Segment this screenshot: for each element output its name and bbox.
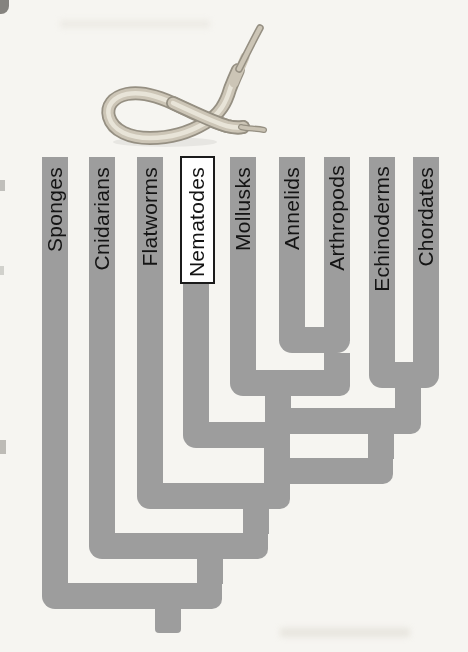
taxon-label-echinoderms: Echinoderms <box>369 166 395 292</box>
taxon-label-sponges: Sponges <box>42 167 68 252</box>
taxon-label-arthropods: Arthropods <box>324 165 350 271</box>
scan-edge-mark <box>0 180 5 191</box>
taxon-label-nematodes: Nematodes <box>184 167 210 277</box>
page-bleedthrough-smudge <box>280 628 410 637</box>
cladogram-figure: Sponges Cnidarians Flatworms Nematodes M… <box>0 0 468 652</box>
taxon-label-annelids: Annelids <box>279 167 305 250</box>
taxon-label-flatworms: Flatworms <box>137 167 163 267</box>
nematode-worm-illustration <box>95 15 273 150</box>
scan-corner-mark <box>0 0 9 14</box>
root-stub <box>155 609 181 633</box>
scan-edge-mark <box>0 266 4 275</box>
branch-join-annelids-arthropods <box>279 327 350 353</box>
stem-protostome-clade <box>265 396 291 409</box>
branch-join-mollusks-clade <box>230 370 350 396</box>
scan-edge-mark <box>0 440 6 454</box>
branch-join-echinoderms-chordates <box>369 362 439 388</box>
branch-join-cnidarians-clade <box>89 533 268 559</box>
stem-nematode-node <box>264 448 290 484</box>
stem-cnidarian-node <box>197 559 223 584</box>
branch-join-flatworms-clade <box>137 483 290 509</box>
stem-coelomate-clade <box>368 434 394 459</box>
taxon-label-chordates: Chordates <box>413 167 439 267</box>
branch-join-nematodes-clade <box>183 422 290 448</box>
taxon-label-cnidarians: Cnidarians <box>89 167 115 270</box>
stem-flatworm-node <box>243 509 269 534</box>
nematodes-highlight-box: Nematodes <box>180 156 215 284</box>
stem-echinoderm-chordate-clade <box>395 388 421 409</box>
stem-annelid-arthropod-clade <box>324 353 350 371</box>
taxon-label-mollusks: Mollusks <box>230 167 256 251</box>
branch-join-root-sponges <box>42 583 222 609</box>
